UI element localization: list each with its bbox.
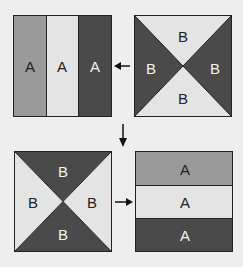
panel-hourglass-bottom: B B B B [14, 151, 112, 252]
arrow-down-icon [117, 123, 129, 148]
label-b-top: B [58, 164, 68, 179]
label-a: A [180, 162, 190, 177]
label-b-right: B [210, 61, 220, 76]
arrow-left-icon [112, 60, 134, 72]
arrow-right-icon [113, 196, 135, 208]
panel-vertical-stripes: A A A [13, 15, 112, 117]
label-b-left: B [146, 61, 156, 76]
label-a: A [57, 59, 67, 74]
label-b-left: B [28, 195, 38, 210]
label-a: A [90, 59, 100, 74]
label-b-bottom: B [58, 227, 68, 242]
panel-horizontal-stripes: A A A [135, 151, 233, 252]
label-a: A [25, 59, 35, 74]
label-a: A [180, 228, 190, 243]
panel-hourglass-top: B B B B [134, 15, 232, 117]
label-b-bottom: B [178, 91, 188, 106]
label-b-right: B [87, 195, 97, 210]
label-b-top: B [178, 29, 188, 44]
label-a: A [180, 195, 190, 210]
